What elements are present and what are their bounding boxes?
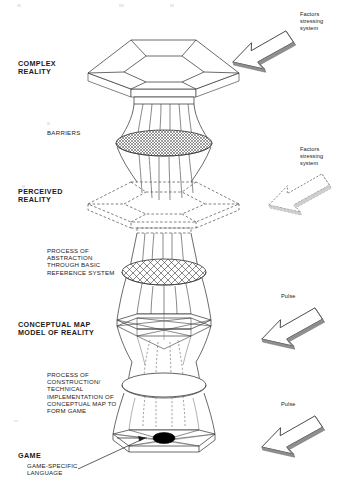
side-label-pulse-lower: Pulse xyxy=(281,401,296,408)
stage-label-conceptual-map: CONCEPTUAL MAP MODEL OF REALITY xyxy=(18,321,94,338)
arrow-factors-stressing-system-middle xyxy=(268,172,331,216)
process-label-construction: PROCESS OF CONSTRUCTION/ TECHNICAL IMPLE… xyxy=(47,371,117,414)
game-title-label: GAME xyxy=(18,452,41,460)
stage-label-perceived-reality: PERCEIVED REALITY xyxy=(18,188,63,205)
diagram-canvas: COMPLEX REALITY BARRIERS PERCEIVED REALI… xyxy=(0,0,346,491)
stage-label-complex-reality: COMPLEX REALITY xyxy=(18,60,56,77)
side-label-factors-stressing-system-middle: Factors stressing system xyxy=(300,146,323,167)
game-subtitle-label: GAME-SPECIFIC LANGUAGE xyxy=(27,462,78,477)
barriers-label: BARRIERS xyxy=(47,129,81,136)
process-label-abstraction: PROCESS OF ABSTRACTION THROUGH BASIC REF… xyxy=(47,247,115,276)
side-label-pulse-upper: Pulse xyxy=(281,293,296,300)
side-label-factors-stressing-system-top: Factors stressing system xyxy=(300,11,323,32)
arrow-factors-stressing-system-top xyxy=(232,29,295,73)
arrow-pulse-lower xyxy=(261,414,324,458)
arrow-pulse-upper xyxy=(261,306,324,350)
